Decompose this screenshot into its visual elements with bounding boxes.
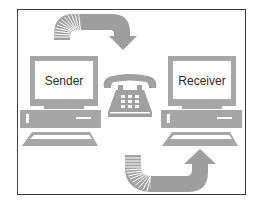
diagram-canvas xyxy=(0,0,258,206)
receiver-computer-icon xyxy=(161,56,242,146)
sender-label: Sender xyxy=(35,74,93,88)
sender-computer-icon xyxy=(20,56,101,146)
top-curved-arrow-icon xyxy=(54,14,137,50)
bottom-curved-arrow-icon xyxy=(125,149,216,192)
telephone-icon xyxy=(104,74,157,117)
receiver-label: Receiver xyxy=(173,74,231,88)
